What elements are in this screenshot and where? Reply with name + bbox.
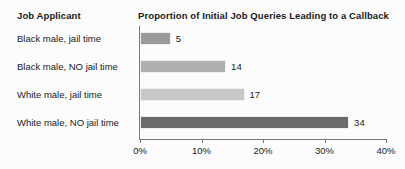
tick-label: 40% [376,145,395,156]
category-label: White male, jail time [17,89,135,100]
tick-label: 10% [192,145,211,156]
bar [140,32,171,45]
chart-title: Proportion of Initial Job Queries Leadin… [138,10,389,21]
bar-chart-figure: Job Applicant Proportion of Initial Job … [0,0,405,169]
bar [140,60,226,73]
bar [140,116,349,129]
bar-value-label: 5 [176,33,181,44]
bar [140,88,245,101]
bar-value-label: 14 [231,61,242,72]
tick-mark [140,139,141,143]
tick-label: 0% [133,145,147,156]
category-column-header: Job Applicant [17,10,81,21]
tick-mark [386,139,387,143]
tick-mark [202,139,203,143]
category-label: Black male, NO jail time [17,61,135,72]
category-label: Black male, jail time [17,33,135,44]
bar-value-label: 34 [354,117,365,128]
tick-mark [263,139,264,143]
category-label: White male, NO jail time [17,117,135,128]
tick-label: 20% [253,145,272,156]
tick-label: 30% [315,145,334,156]
plot-area: Black male, jail timeBlack male, NO jail… [0,26,405,143]
bar-value-label: 17 [250,89,261,100]
tick-mark [325,139,326,143]
